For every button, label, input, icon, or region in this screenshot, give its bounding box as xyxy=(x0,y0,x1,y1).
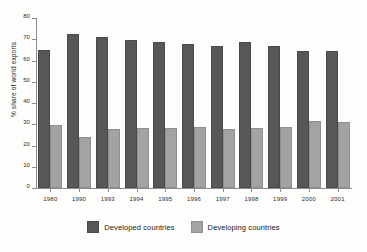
bar-group xyxy=(295,18,324,188)
y-tick-label: 50 xyxy=(23,77,30,83)
bar-developed-1996 xyxy=(182,44,194,188)
y-axis-tick: 50 xyxy=(0,82,36,83)
y-tick-label: 0 xyxy=(27,183,30,189)
bar-developing-1993 xyxy=(108,129,120,188)
x-tick-mark xyxy=(309,188,310,192)
bar-developed-1999 xyxy=(268,46,280,188)
bar-developed-1980 xyxy=(38,50,50,188)
y-tick-label: 20 xyxy=(23,141,30,147)
bar-group xyxy=(122,18,151,188)
y-tick-label: 40 xyxy=(23,98,30,104)
legend-entry-dev[interactable]: Developed countries xyxy=(87,221,174,233)
x-tick-mark xyxy=(79,188,80,192)
bar-developed-1995 xyxy=(153,42,165,189)
bar-developed-1997 xyxy=(211,46,223,188)
bar-group xyxy=(323,18,352,188)
y-axis-tick: 20 xyxy=(0,146,36,147)
y-axis-title: % share of world exports xyxy=(10,5,17,155)
bar-group xyxy=(151,18,180,188)
bar-developed-1998 xyxy=(239,42,251,189)
bar-developing-1998 xyxy=(251,128,263,188)
bar-developing-1994 xyxy=(137,128,149,188)
bar-developed-2001 xyxy=(326,51,338,188)
bar-developing-1996 xyxy=(194,127,206,189)
bar-developing-1990 xyxy=(79,137,91,188)
y-tick-mark xyxy=(32,188,36,189)
y-tick-label: 80 xyxy=(23,13,30,19)
bar-developed-1993 xyxy=(96,37,108,188)
legend-swatch-icon xyxy=(191,221,203,233)
bar-group xyxy=(208,18,237,188)
y-tick-label: 30 xyxy=(23,119,30,125)
bar-group xyxy=(237,18,266,188)
x-tick-mark xyxy=(280,188,281,192)
x-tick-mark xyxy=(251,188,252,192)
bar-developing-1997 xyxy=(223,129,235,188)
legend-swatch-icon xyxy=(87,221,99,233)
x-tick-label: 2001 xyxy=(321,196,355,202)
bar-group xyxy=(180,18,209,188)
legend-label: Developing countries xyxy=(208,223,280,232)
y-axis-tick: 0 xyxy=(0,188,36,189)
bar-developed-1994 xyxy=(125,40,137,188)
y-axis-tick: 80 xyxy=(0,18,36,19)
bar-developing-1999 xyxy=(280,127,292,189)
x-tick-mark xyxy=(223,188,224,192)
bar-developed-1990 xyxy=(67,34,79,188)
y-axis-tick: 10 xyxy=(0,167,36,168)
legend-label: Developed countries xyxy=(104,223,174,232)
x-tick-mark xyxy=(194,188,195,192)
bar-developed-2000 xyxy=(297,51,309,188)
chart-legend: Developed countriesDeveloping countries xyxy=(0,221,367,233)
bar-developing-2001 xyxy=(338,122,350,188)
bar-developing-1995 xyxy=(165,128,177,188)
bar-developing-1980 xyxy=(50,125,62,188)
x-tick-mark xyxy=(165,188,166,192)
y-tick-label: 70 xyxy=(23,34,30,40)
bar-group xyxy=(266,18,295,188)
bar-group xyxy=(93,18,122,188)
y-tick-label: 60 xyxy=(23,56,30,62)
bar-group xyxy=(36,18,65,188)
y-axis-tick: 40 xyxy=(0,103,36,104)
x-tick-mark xyxy=(137,188,138,192)
x-tick-mark xyxy=(50,188,51,192)
bar-developing-2000 xyxy=(309,121,321,188)
y-tick-label: 10 xyxy=(23,162,30,168)
y-axis-tick: 60 xyxy=(0,61,36,62)
bar-chart: % share of world exports 010203040506070… xyxy=(0,0,367,252)
y-axis-tick: 30 xyxy=(0,124,36,125)
x-tick-mark xyxy=(338,188,339,192)
legend-entry-devg[interactable]: Developing countries xyxy=(191,221,280,233)
y-axis-tick: 70 xyxy=(0,39,36,40)
x-tick-mark xyxy=(108,188,109,192)
bar-group xyxy=(65,18,94,188)
